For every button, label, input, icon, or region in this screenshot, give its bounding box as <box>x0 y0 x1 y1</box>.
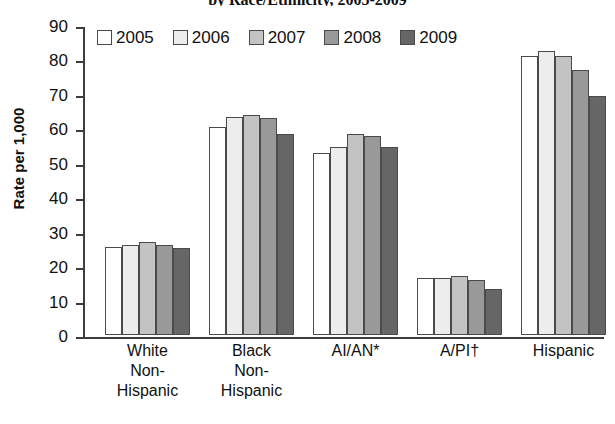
y-tick <box>76 337 83 339</box>
bar <box>226 117 243 335</box>
y-tick <box>76 61 83 63</box>
y-tick-label: 20 <box>28 259 68 276</box>
bar <box>417 278 434 335</box>
y-tick-label: 50 <box>28 156 68 173</box>
bar <box>347 134 364 335</box>
legend-label: 2008 <box>343 29 381 46</box>
legend-label: 2006 <box>192 29 230 46</box>
legend-item: 2007 <box>249 29 306 46</box>
legend-label: 2005 <box>116 29 154 46</box>
legend-swatch <box>97 30 112 45</box>
legend-label: 2009 <box>419 29 457 46</box>
bar <box>277 134 294 335</box>
y-tick-label: 90 <box>28 18 68 35</box>
legend-item: 2009 <box>400 29 457 46</box>
bar <box>521 56 538 335</box>
y-tick <box>76 268 83 270</box>
bar <box>555 56 572 335</box>
y-tick-label: 60 <box>28 121 68 138</box>
bar <box>156 245 173 335</box>
bar <box>364 136 381 335</box>
bar <box>313 153 330 335</box>
bar-group: AI/AN* <box>313 25 398 335</box>
bar <box>209 127 226 335</box>
y-tick-label: 30 <box>28 225 68 242</box>
bar <box>105 247 122 335</box>
bar-chart: by Race/Ethnicity, 2005-2009 Rate per 1,… <box>0 0 615 424</box>
legend-item: 2008 <box>324 29 381 46</box>
y-tick-label: 0 <box>28 328 68 345</box>
bar-group: White Non- Hispanic <box>105 25 190 335</box>
y-tick-label: 80 <box>28 52 68 69</box>
bar <box>434 278 451 335</box>
legend-item: 2005 <box>97 29 154 46</box>
bar <box>381 147 398 335</box>
y-axis-line <box>83 27 85 338</box>
bar <box>468 280 485 335</box>
x-axis-line <box>83 337 604 339</box>
y-tick <box>76 96 83 98</box>
plot-area: 9080706050403020100 White Non- HispanicB… <box>83 27 604 337</box>
chart-title: by Race/Ethnicity, 2005-2009 <box>0 0 615 6</box>
legend-swatch <box>249 30 264 45</box>
y-tick <box>76 234 83 236</box>
legend-swatch <box>173 30 188 45</box>
bar <box>243 115 260 335</box>
bar-group: Black Non- Hispanic <box>209 25 294 335</box>
bar <box>572 70 589 335</box>
y-tick-label: 70 <box>28 87 68 104</box>
bar <box>173 248 190 335</box>
y-tick <box>76 27 83 29</box>
legend-swatch <box>324 30 339 45</box>
bar <box>451 276 468 335</box>
y-tick <box>76 199 83 201</box>
legend-label: 2007 <box>268 29 306 46</box>
y-axis-title: Rate per 1,000 <box>10 69 27 249</box>
legend-item: 2006 <box>173 29 230 46</box>
y-tick <box>76 303 83 305</box>
bar <box>485 289 502 336</box>
bar-group: A/PI† <box>417 25 502 335</box>
bar <box>260 118 277 335</box>
y-tick-label: 10 <box>28 294 68 311</box>
y-tick <box>76 130 83 132</box>
bar <box>538 51 555 335</box>
legend-swatch <box>400 30 415 45</box>
bar <box>122 245 139 335</box>
y-tick <box>76 165 83 167</box>
y-tick-label: 40 <box>28 190 68 207</box>
legend: 20052006200720082009 <box>97 29 476 46</box>
x-axis-category-label: Hispanic <box>499 341 615 361</box>
bar <box>330 147 347 335</box>
bar-group: Hispanic <box>521 25 606 335</box>
bar <box>589 96 606 335</box>
bar <box>139 242 156 335</box>
